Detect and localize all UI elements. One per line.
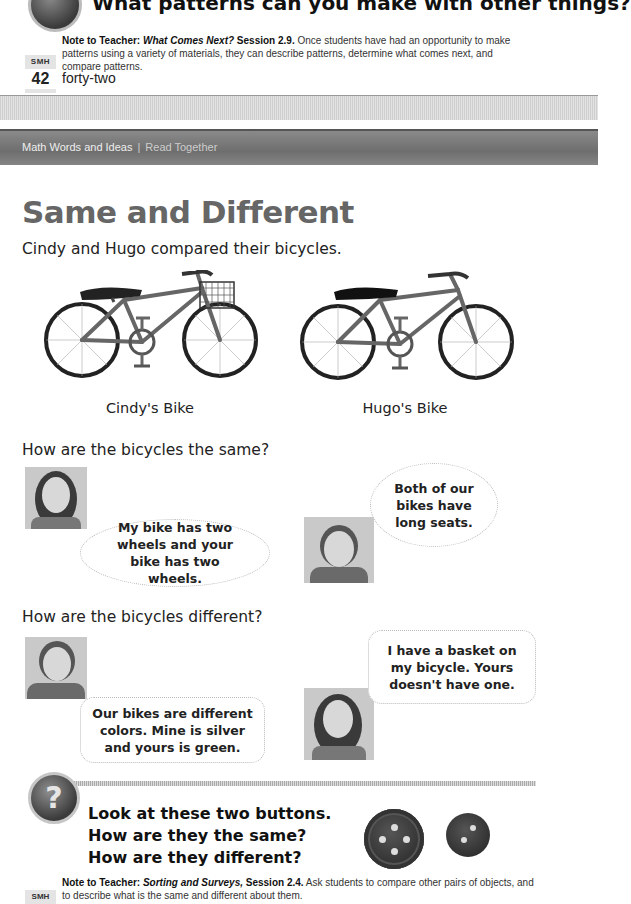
hugos-bike-caption: Hugo's Bike [305, 400, 505, 416]
prompt-line-2: How are they the same? [88, 825, 331, 847]
shoulders-shape [310, 567, 368, 583]
cindys-bike-illustration [42, 270, 262, 380]
speech-text: Our bikes are different colors. Mine is … [88, 705, 258, 756]
page-number: 42 [25, 69, 56, 89]
teacher-note-top: Note to Teacher: What Comes Next? Sessio… [62, 34, 532, 73]
button-hole [403, 836, 410, 843]
question-mark-icon [28, 0, 82, 32]
note-session: Session 2.9. [237, 35, 295, 46]
same-question: How are the bicycles the same? [22, 441, 269, 459]
speech-bubble-hugo-different: Our bikes are different colors. Mine is … [80, 697, 265, 763]
shoulders-shape [27, 683, 85, 699]
four-hole-button-image [364, 809, 424, 869]
breadcrumb: Math Words and Ideas|Read Together [22, 141, 217, 153]
speech-bubble-hugo-same: Both of our bikes have long seats. [370, 463, 498, 547]
breadcrumb-mode: Read Together [145, 141, 217, 153]
button-hole [391, 848, 398, 855]
section-header-bar: Math Words and Ideas|Read Together [0, 129, 598, 165]
buttons-prompt: Look at these two buttons. How are they … [88, 803, 331, 869]
note-label: Note to Teacher: [62, 35, 140, 46]
page-number-word: forty-two [62, 70, 116, 86]
speech-bubble-cindy-different: I have a basket on my bicycle. Yours doe… [368, 630, 536, 704]
note-unit: Sorting and Surveys, [143, 877, 243, 888]
page-title: Same and Different [22, 194, 354, 230]
button-hole [470, 825, 476, 831]
shoulders-shape [312, 746, 366, 760]
question-mark-icon: ? [28, 772, 80, 824]
prompt-line-3: How are they different? [88, 847, 331, 869]
hugo-photo [304, 517, 374, 583]
speech-bubble-cindy-same: My bike has two wheels and your bike has… [80, 519, 270, 587]
smh-page-tab: SMH [25, 890, 56, 904]
note-session: Session 2.4. [246, 877, 304, 888]
cindy-photo [25, 467, 87, 529]
button-hole [461, 837, 467, 843]
two-hole-button-image [446, 813, 490, 857]
button-hole [391, 824, 398, 831]
breadcrumb-separator: | [137, 141, 140, 153]
section-rule [66, 781, 536, 786]
previous-page-question: What patterns can you make with other th… [92, 0, 631, 15]
cindys-bike-caption: Cindy's Bike [50, 400, 250, 416]
smh-page-tab: SMH 42 [25, 55, 56, 93]
different-question: How are the bicycles different? [22, 608, 262, 626]
face-shape [323, 700, 353, 738]
note-label: Note to Teacher: [62, 877, 140, 888]
page-divider [0, 95, 598, 120]
speech-text: Both of our bikes have long seats. [384, 480, 484, 531]
intro-text: Cindy and Hugo compared their bicycles. [22, 240, 342, 258]
face-shape [43, 647, 71, 681]
breadcrumb-section: Math Words and Ideas [22, 141, 132, 153]
smh-label: SMH [25, 57, 56, 66]
cindy-photo [304, 688, 374, 760]
speech-text: I have a basket on my bicycle. Yours doe… [377, 642, 527, 693]
note-unit: What Comes Next? [143, 35, 234, 46]
hugo-photo [25, 637, 87, 699]
speech-text: My bike has two wheels and your bike has… [105, 519, 245, 587]
button-hole [379, 836, 386, 843]
shoulders-shape [31, 517, 81, 529]
teacher-note-bottom: Note to Teacher: Sorting and Surveys, Se… [62, 876, 542, 902]
prompt-line-1: Look at these two buttons. [88, 803, 331, 825]
face-shape [42, 477, 70, 513]
face-shape [324, 531, 354, 567]
hugos-bike-illustration [300, 270, 520, 380]
